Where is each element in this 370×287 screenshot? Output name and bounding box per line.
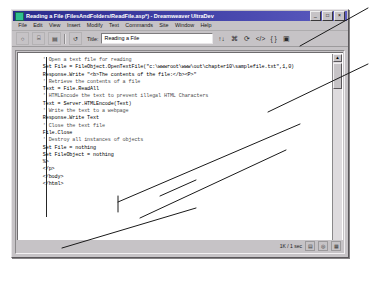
menu-site[interactable]: Site xyxy=(156,21,172,30)
code-line: Set FileObject = nothing xyxy=(25,152,333,159)
document-toolbar: ○ ⌸ ▤ ↺ Title: Reading a File ↑↓ ⌘ ⟳ </>… xyxy=(12,31,348,47)
code-line: </p> xyxy=(25,166,333,173)
status-indicator-3[interactable]: ▦ xyxy=(331,241,341,251)
window-controls: _ □ × xyxy=(310,11,345,21)
title-field-label: Title: xyxy=(87,36,98,42)
code-line: Response.Write "<b>The contents of the f… xyxy=(25,72,333,79)
code-line: File.Close xyxy=(25,130,333,137)
scroll-up-button[interactable]: ▲ xyxy=(333,54,342,62)
code-line: ' Close the text file xyxy=(25,123,333,130)
menu-commands[interactable]: Commands xyxy=(122,21,156,30)
title-bar[interactable]: Reading a File (FilesAndFolders/ReadFile… xyxy=(13,11,347,21)
minimize-button[interactable]: _ xyxy=(310,11,321,21)
menu-modify[interactable]: Modify xyxy=(84,21,106,30)
window-title: Reading a File (FilesAndFolders/ReadFile… xyxy=(26,12,310,21)
reference-icon[interactable]: </> xyxy=(255,33,265,44)
code-view[interactable]: ' Open a text file for reading Set File … xyxy=(17,52,343,240)
code-navigation-icon[interactable]: { } xyxy=(268,33,278,44)
menu-edit[interactable]: Edit xyxy=(30,21,46,30)
code-line: ' HTMLEncode the text to prevent illegal… xyxy=(25,93,333,100)
code-line: Text = File.ReadAll xyxy=(25,86,333,93)
text-cursor xyxy=(46,57,47,217)
maximize-button[interactable]: □ xyxy=(322,11,333,21)
menu-bar: File Edit View Insert Modify Text Comman… xyxy=(12,21,348,31)
code-line: ' Destroy all instances of objects xyxy=(25,137,333,144)
dreamweaver-icon xyxy=(15,12,24,21)
menu-insert[interactable]: Insert xyxy=(64,21,84,30)
show-code-and-design-view-icon[interactable]: ⌸ xyxy=(32,32,45,45)
code-line: Set File = FileObject.OpenTextFile("c:\w… xyxy=(25,64,333,71)
code-line: Response.Write Text xyxy=(25,115,333,122)
code-line: Text = Server.HTMLEncode(Text) xyxy=(25,101,333,108)
code-line: Set File = nothing xyxy=(25,145,333,152)
application-window: Reading a File (FilesAndFolders/ReadFile… xyxy=(11,9,349,258)
code-vertical-scrollbar[interactable]: ▲ xyxy=(332,54,342,240)
refresh-design-view-icon[interactable]: ⟳ xyxy=(242,33,252,44)
menu-view[interactable]: View xyxy=(46,21,64,30)
code-line: ' Write the text to a webpage xyxy=(25,108,333,115)
menu-text[interactable]: Text xyxy=(106,21,122,30)
status-bar: 1K / 1 sec ▤ ◎ ▦ xyxy=(17,240,343,252)
preview-in-browser-icon[interactable]: ⌘ xyxy=(229,33,239,44)
close-button[interactable]: × xyxy=(334,11,345,21)
document-size-status: 1K / 1 sec xyxy=(280,241,302,251)
toolbar-separator xyxy=(64,34,66,44)
document-title-input[interactable]: Reading a File xyxy=(101,33,213,44)
status-indicator-2[interactable]: ◎ xyxy=(318,241,328,251)
view-options-icon[interactable]: ▣ xyxy=(281,33,291,44)
show-design-view-icon[interactable]: ▤ xyxy=(48,32,61,45)
document-frame: ' Open a text file for reading Set File … xyxy=(15,50,345,254)
code-line: ' Retrieve the contents of a file xyxy=(25,79,333,86)
code-line: ' Open a text file for reading xyxy=(25,57,333,64)
file-management-icon[interactable]: ↑↓ xyxy=(216,33,226,44)
code-line: %> xyxy=(25,159,333,166)
code-text-container[interactable]: ' Open a text file for reading Set File … xyxy=(18,53,333,240)
show-code-view-icon[interactable]: ○ xyxy=(16,32,29,45)
menu-help[interactable]: Help xyxy=(197,21,214,30)
status-indicator-1[interactable]: ▤ xyxy=(305,241,315,251)
live-data-view-icon[interactable]: ↺ xyxy=(69,32,82,45)
scrollbar-thumb[interactable] xyxy=(333,63,342,89)
menu-window[interactable]: Window xyxy=(172,21,198,30)
code-line: </html> xyxy=(25,181,333,188)
menu-file[interactable]: File xyxy=(15,21,30,30)
code-line: </body> xyxy=(25,174,333,181)
